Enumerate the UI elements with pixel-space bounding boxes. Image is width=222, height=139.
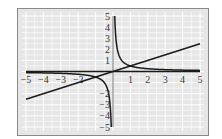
y-tick-label: 3	[105, 33, 110, 44]
x-tick-label: 4	[180, 74, 185, 85]
x-tick-label: −4	[38, 74, 49, 85]
x-tick-label: 3	[163, 74, 168, 85]
x-tick-label: 2	[145, 74, 150, 85]
x-tick-label: 5	[198, 74, 203, 85]
hyperbola-branch-positive	[115, 16, 200, 70]
y-tick-label: −5	[99, 122, 110, 133]
y-tick-label: −3	[99, 99, 110, 110]
x-tick-label: −3	[55, 74, 66, 85]
x-tick-label: −5	[21, 74, 32, 85]
y-tick-label: 2	[105, 44, 110, 55]
x-tick-label: −2	[73, 74, 84, 85]
y-tick-label: 1	[105, 55, 110, 66]
y-tick-label: −2	[99, 88, 110, 99]
y-tick-label: −4	[99, 110, 110, 121]
y-tick-label: 5	[105, 11, 110, 22]
y-tick-label: 4	[105, 22, 110, 33]
x-tick-label: 1	[128, 74, 133, 85]
function-plot: −5−4−3−212345 54321−2−3−4−5	[0, 0, 222, 139]
